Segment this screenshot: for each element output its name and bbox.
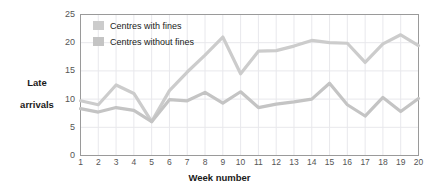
x-tick-label: 19 — [393, 158, 409, 167]
y-tick-label: 10 — [53, 95, 75, 104]
y-tick-label: 25 — [53, 10, 75, 19]
grid-lines — [81, 15, 419, 156]
x-tick-label: 5 — [144, 158, 160, 167]
x-tick-label: 8 — [197, 158, 213, 167]
x-tick-label: 20 — [411, 158, 427, 167]
legend-label-without-fines: Centres without fines — [110, 37, 194, 47]
x-tick-label: 4 — [126, 158, 142, 167]
chart-container: Late arrivals Week number 0510152025 123… — [0, 0, 439, 191]
legend-swatch-without-fines — [93, 37, 104, 46]
y-tick-label: 15 — [53, 66, 75, 75]
x-tick-label: 7 — [179, 158, 195, 167]
y-tick-label: 20 — [53, 38, 75, 47]
x-tick-label: 9 — [215, 158, 231, 167]
x-tick-label: 14 — [304, 158, 320, 167]
x-tick-label: 11 — [250, 158, 266, 167]
series-line-without-fines — [81, 83, 419, 121]
x-tick-label: 13 — [286, 158, 302, 167]
legend-swatch-with-fines — [93, 21, 104, 30]
x-tick-label: 2 — [90, 158, 106, 167]
x-tick-label: 15 — [322, 158, 338, 167]
plot-frame — [81, 15, 419, 156]
plot-frame-rect — [81, 15, 419, 156]
x-tick-label: 10 — [233, 158, 249, 167]
x-tick-label: 17 — [357, 158, 373, 167]
x-tick-label: 12 — [268, 158, 284, 167]
legend-label-with-fines: Centres with fines — [110, 21, 182, 31]
x-tick-label: 18 — [375, 158, 391, 167]
x-tick-label: 1 — [73, 158, 89, 167]
x-tick-label: 16 — [339, 158, 355, 167]
data-series-group — [81, 35, 419, 122]
x-tick-label: 6 — [161, 158, 177, 167]
y-tick-label: 5 — [53, 123, 75, 132]
x-tick-label: 3 — [108, 158, 124, 167]
